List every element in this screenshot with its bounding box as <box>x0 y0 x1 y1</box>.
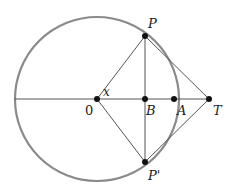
point-T <box>206 96 212 102</box>
point-P <box>142 33 148 39</box>
label-T: T <box>213 103 223 118</box>
label-B: B <box>145 103 156 118</box>
label-center: 0 <box>85 103 93 118</box>
label-angle-x: x <box>103 85 110 99</box>
tangent-PT <box>145 36 209 99</box>
point-B <box>142 96 148 102</box>
label-P: P <box>147 16 157 31</box>
diagram: P P' 0 B A T x <box>0 0 239 195</box>
point-O <box>94 96 100 102</box>
point-A <box>171 96 177 102</box>
point-P-prime <box>142 159 148 165</box>
label-P-prime: P' <box>147 168 160 183</box>
radius-OP-prime <box>97 99 145 162</box>
label-A: A <box>176 103 186 118</box>
